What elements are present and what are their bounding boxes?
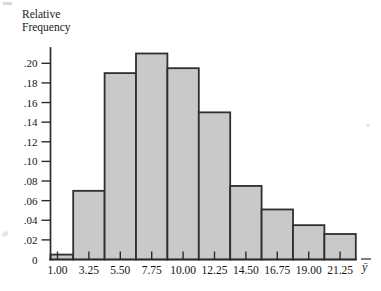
histogram-bar	[105, 73, 136, 259]
x-tick-label: 5.50	[110, 264, 130, 276]
y-tick-label: .16	[24, 97, 38, 109]
x-tick-label: 1.00	[47, 264, 67, 276]
y-tick-label: .02	[24, 234, 38, 246]
x-tick-label: 16.75	[264, 264, 290, 276]
histogram-bar	[230, 186, 261, 260]
y-tick-label: .18	[24, 77, 38, 89]
y-tick-label: .20	[24, 57, 38, 69]
y-axis-ticks: 0.02.04.06.08.10.12.14.16.18.20	[24, 57, 51, 265]
histogram-bar	[73, 191, 104, 260]
x-tick-label: 7.75	[142, 264, 162, 276]
y-tick-label: .14	[24, 116, 38, 128]
x-tick-label: 3.25	[79, 264, 99, 276]
x-tick-label: 12.25	[202, 264, 228, 276]
y-tick-label: .08	[24, 175, 38, 187]
histogram-chart: Relative Frequency 0.02.04.06.08.10.12.1…	[0, 0, 381, 291]
histogram-bar	[136, 53, 167, 259]
y-tick-label: .06	[24, 195, 38, 207]
x-tick-label: 21.25	[327, 264, 353, 276]
histogram-bar	[199, 112, 230, 259]
x-axis-label: ȳ	[361, 260, 368, 274]
y-tick-label: .12	[24, 136, 38, 148]
x-tick-label: 14.50	[233, 264, 259, 276]
plot-area: 0.02.04.06.08.10.12.14.16.18.20 1.003.25…	[0, 0, 381, 291]
histogram-bar	[167, 68, 198, 259]
y-tick-label: 0	[32, 254, 38, 266]
x-tick-label: 10.00	[170, 264, 196, 276]
bars-group	[51, 53, 356, 259]
x-tick-label: 19.00	[296, 264, 322, 276]
y-tick-label: .04	[24, 214, 38, 226]
y-tick-label: .10	[24, 155, 38, 167]
